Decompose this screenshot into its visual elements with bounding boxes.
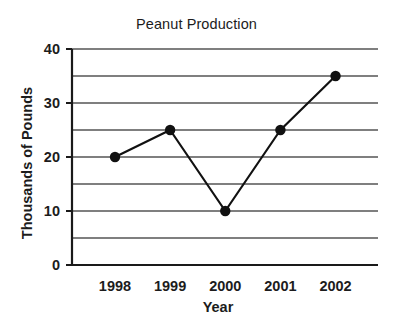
data-point-marker <box>110 152 120 162</box>
data-point-marker <box>275 125 285 135</box>
data-point-marker <box>330 71 340 81</box>
plot-area <box>0 0 393 328</box>
peanut-production-chart: Peanut Production Thousands of Pounds Ye… <box>0 0 393 328</box>
data-line-series-peanut-production <box>115 76 336 211</box>
data-point-marker <box>220 206 230 216</box>
data-point-marker <box>165 125 175 135</box>
